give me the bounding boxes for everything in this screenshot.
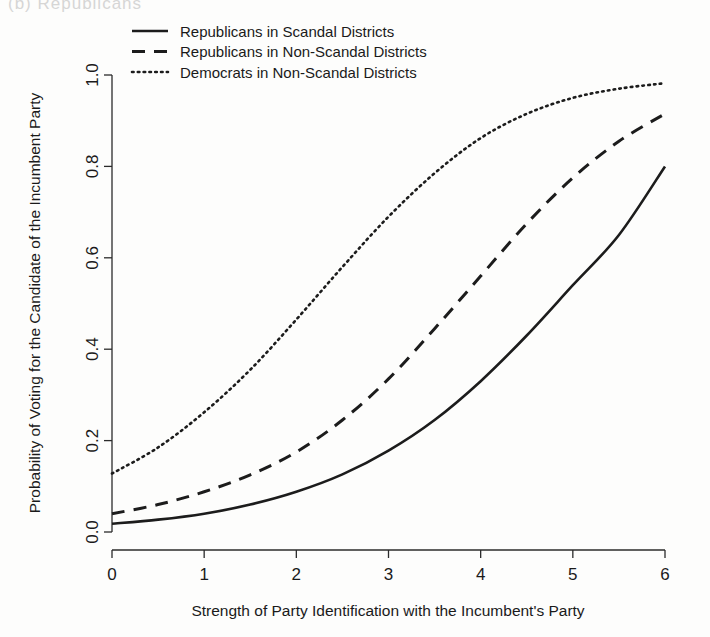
y-axis: 0.00.20.40.60.81.0 Probability of Voting… [26,63,112,544]
legend-label-2: Democrats in Non-Scandal Districts [180,64,417,81]
x-tick-label: 5 [568,565,577,584]
x-tick-label: 4 [476,565,485,584]
y-tick-label: 0.8 [83,155,102,179]
series-line-1 [112,114,665,514]
y-tick-label: 0.6 [83,246,102,270]
y-tick-label: 0.2 [83,429,102,453]
y-tick-label: 1.0 [83,63,102,87]
y-axis-title: Probability of Voting for the Candidate … [26,93,43,514]
legend-label-1: Republicans in Non-Scandal Districts [180,43,427,60]
series-line-2 [112,83,665,473]
x-tick-label: 3 [384,565,393,584]
legend-label-0: Republicans in Scandal Districts [180,23,394,40]
figure-canvas: (b) Republicans 0.00.20.40.60.81.0 Proba… [0,0,710,637]
chart-legend: Republicans in Scandal DistrictsRepublic… [132,23,427,81]
y-tick-label: 0.4 [83,337,102,361]
x-axis-title: Strength of Party Identification with th… [191,602,584,619]
x-tick-group [112,550,665,558]
series-group [112,83,665,524]
x-tick-label-group: 0123456 [107,565,669,584]
x-tick-label: 2 [292,565,301,584]
series-line-0 [112,166,665,523]
y-tick-group [104,75,112,532]
probability-line-chart: 0.00.20.40.60.81.0 Probability of Voting… [0,0,710,637]
y-tick-label: 0.0 [83,520,102,544]
x-tick-label: 1 [199,565,208,584]
x-tick-label: 0 [107,565,116,584]
y-tick-label-group: 0.00.20.40.60.81.0 [83,63,102,544]
x-axis: 0123456 Strength of Party Identification… [107,550,669,619]
x-tick-label: 6 [660,565,669,584]
